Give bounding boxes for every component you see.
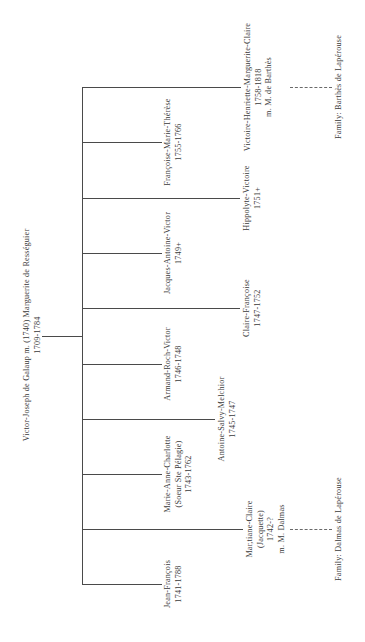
branch-claire-francoise (82, 308, 240, 309)
parent-label: Victor-Joseph de Galaup m. (1740) Margue… (22, 140, 43, 530)
descent-dalmas (290, 529, 332, 530)
branch-marie-anne (82, 474, 162, 475)
child-armand-roch-victor: Armand-Roch-Victor 1746-1748 (163, 314, 184, 414)
child-marie-anne-charlotte: Marie-Anne-Charlotte (Soeur Ste Pélagie)… (163, 424, 195, 524)
child-victoire-henriette: Victoire-Henriette-Marguerite-Claire 175… (243, 17, 275, 157)
parent-names: Victor-Joseph de Galaup m. (1740) Margue… (22, 140, 33, 530)
descent-barthes (290, 87, 332, 88)
child-claire-francoise: Claire-Françoise 1747-1752 (242, 268, 263, 348)
parent-dates: 1709-1784 (33, 140, 44, 530)
parent-connector (42, 336, 83, 337)
branch-victoire-henriette (82, 87, 241, 88)
branch-francoise-marie (82, 142, 162, 143)
branch-antoine (82, 419, 215, 420)
child-antoine-salvy-melchior: Antoine-Salvy-Melchior 1745-1747 (217, 369, 238, 469)
branch-armand (82, 364, 162, 365)
sibling-bus (82, 87, 83, 585)
child-jacques-antoine-victor: Jacques-Antoine-Victor 1749+ (163, 203, 184, 303)
branch-jacques-antoine (82, 253, 162, 254)
branch-marianne-claire (82, 529, 243, 530)
family-dalmas: Family: Dalmas de Lapérouse (334, 464, 345, 594)
child-jean-francois: Jean-François 1741-1788 (163, 544, 184, 624)
branch-hippolyte (82, 198, 240, 199)
child-marianne-claire: Mar,tiane-Claire (Jacquette) 1742-? m. M… (245, 489, 287, 569)
child-francoise-marie-therese: Françoise-Marie-Thérèse 1755-1766 (163, 92, 184, 192)
branch-jean-francois (82, 584, 162, 585)
child-hippolyte-victoire: Hippolyte-Victoire 1751+ (242, 158, 263, 238)
family-barthes: Family: Barthès de Lapérouse (334, 22, 345, 152)
